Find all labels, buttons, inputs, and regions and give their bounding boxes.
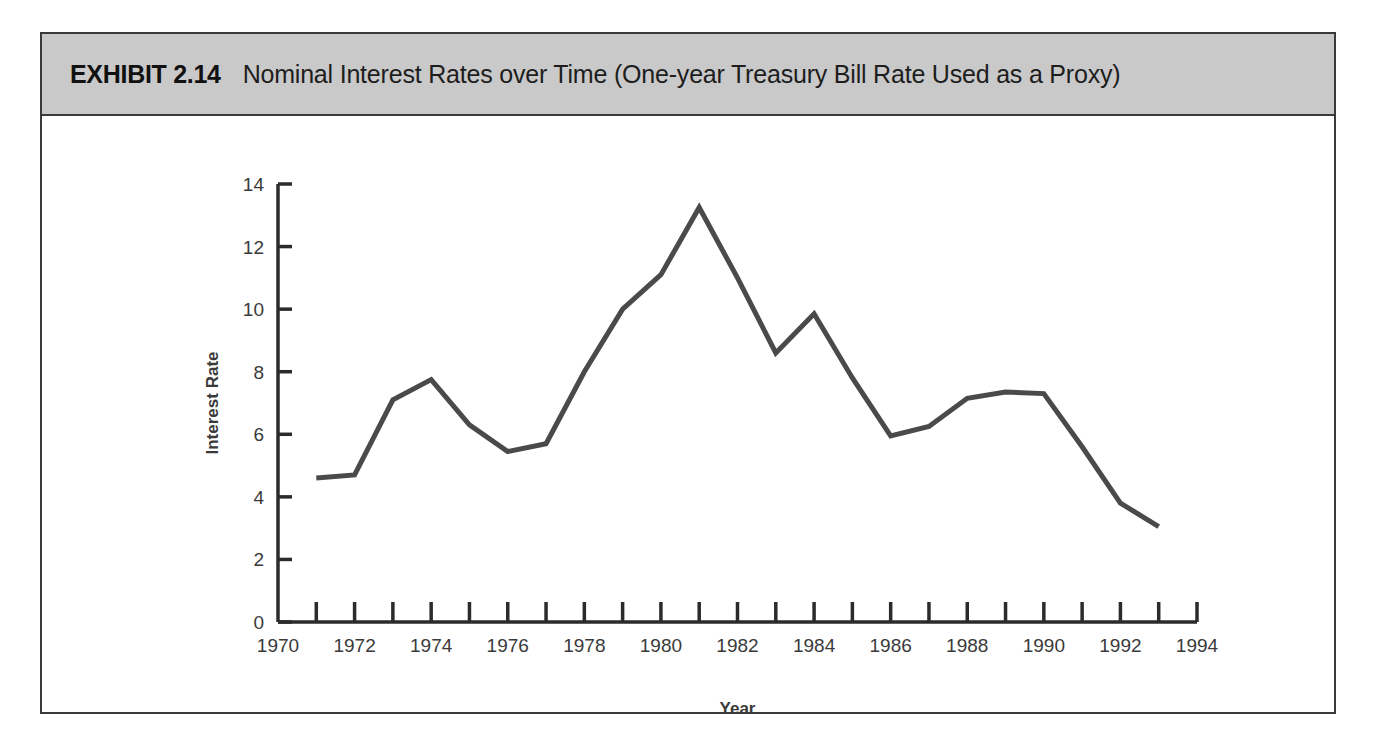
- y-tick-label: 0: [253, 612, 264, 633]
- x-tick-label: 1980: [640, 635, 682, 656]
- x-tick-label: 1974: [410, 635, 453, 656]
- data-series-group: [316, 207, 1158, 526]
- exhibit-number-label: EXHIBIT 2.14: [70, 60, 221, 89]
- x-tick-label: 1992: [1099, 635, 1141, 656]
- y-tick-label: 14: [243, 174, 265, 195]
- x-tick-label: 1982: [716, 635, 758, 656]
- x-tick-label: 1990: [1023, 635, 1065, 656]
- series-line-0: [316, 207, 1158, 526]
- y-tick-label: 6: [253, 424, 264, 445]
- x-tick-label: 1978: [563, 635, 605, 656]
- x-axis: 1970197219741976197819801982198419861988…: [257, 602, 1219, 656]
- x-tick-label: 1970: [257, 635, 299, 656]
- interest-rate-line-chart: 02468101214 1970197219741976197819801982…: [42, 116, 1334, 714]
- y-axis: 02468101214: [243, 174, 292, 633]
- exhibit-header: EXHIBIT 2.14 Nominal Interest Rates over…: [42, 34, 1334, 116]
- x-tick-label: 1988: [946, 635, 988, 656]
- x-tick-label: 1986: [870, 635, 912, 656]
- y-tick-label: 2: [253, 549, 264, 570]
- x-tick-label: 1984: [793, 635, 836, 656]
- x-axis-title: Year: [720, 699, 756, 714]
- x-tick-label: 1972: [333, 635, 375, 656]
- y-tick-label: 8: [253, 362, 264, 383]
- exhibit-title: Nominal Interest Rates over Time (One-ye…: [243, 60, 1121, 89]
- chart-plot-area: 02468101214 1970197219741976197819801982…: [42, 116, 1334, 714]
- y-tick-label: 10: [243, 299, 264, 320]
- x-tick-label: 1976: [487, 635, 529, 656]
- y-axis-title: Interest Rate: [203, 352, 222, 455]
- y-tick-label: 4: [253, 487, 264, 508]
- y-tick-label: 12: [243, 237, 264, 258]
- x-tick-label: 1994: [1176, 635, 1219, 656]
- exhibit-frame: EXHIBIT 2.14 Nominal Interest Rates over…: [40, 32, 1336, 714]
